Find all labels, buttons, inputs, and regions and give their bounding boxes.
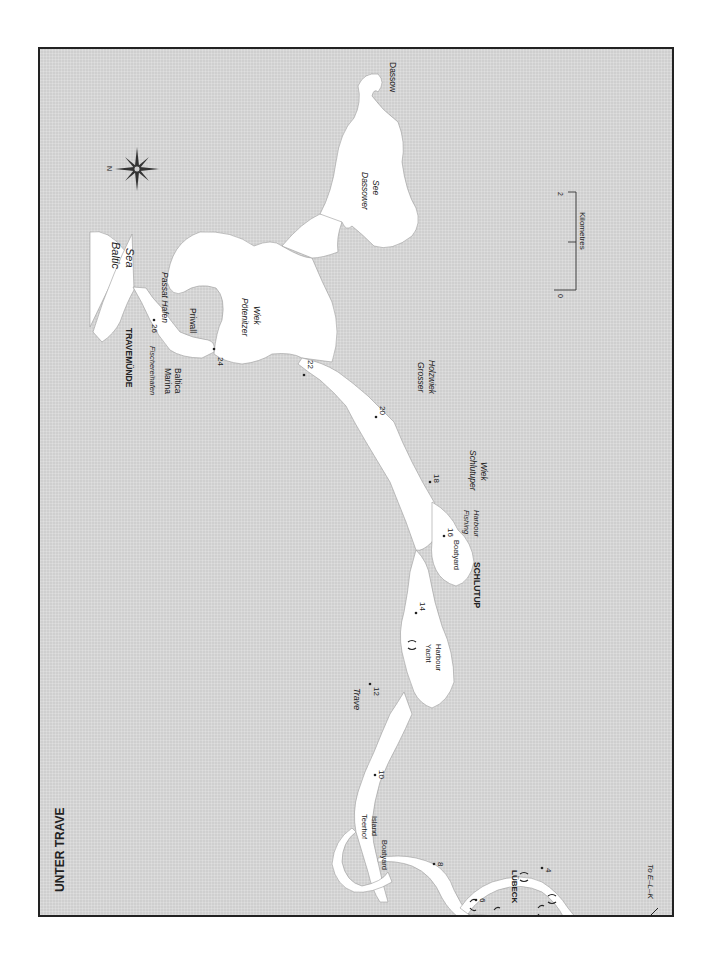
label-passat-hafen: Passat Hafen: [160, 272, 170, 323]
label-boatyard-schlutup: Boatyard: [452, 540, 461, 570]
label-dassower-see-1: Dassower: [360, 172, 370, 211]
label-grosser-1: Grosser: [416, 362, 426, 393]
label-schlutuper-2: Wiek: [479, 462, 489, 482]
label-fishing-1: Fishing: [462, 510, 471, 535]
label-fischereihafen: Fischereihafen: [148, 346, 157, 395]
label-dassower-see-2: See: [371, 180, 381, 195]
km-24: 24: [216, 357, 225, 366]
label-baltic-1: Baltic: [110, 242, 122, 269]
label-marina-2: Baltica: [173, 368, 183, 394]
label-schlutup: SCHLUTUP: [472, 562, 482, 609]
scale-unit: Kilometres: [578, 212, 587, 250]
chart-map: 4 6 8 10 12 14 16 18 20 22 24 26 Dassow …: [40, 49, 674, 917]
label-teerhof-1: Teerhof: [360, 814, 369, 840]
km-4: 4: [544, 868, 553, 873]
km-16: 16: [446, 528, 455, 537]
km-26: 26: [150, 324, 159, 333]
label-marina-1: Marina: [163, 368, 173, 394]
label-grosser-2: Holzwiek: [427, 360, 437, 395]
scale-end: 2: [557, 192, 564, 196]
label-poetenitzer-2: Wiek: [252, 306, 262, 326]
km-12: 12: [372, 687, 381, 696]
map-title: UNTER TRAVE: [53, 808, 67, 892]
label-baltic-2: Sea: [124, 248, 136, 268]
km-22: 22: [306, 360, 315, 369]
label-luebeck: LÜBECK: [510, 870, 519, 904]
label-travemuende: TRAVEMÜNDE: [124, 328, 134, 388]
label-trave: Trave: [352, 688, 362, 710]
water-bodies: [90, 74, 576, 917]
label-priwall: Priwall: [188, 308, 198, 333]
km-14: 14: [418, 602, 427, 611]
map-frame: 4 6 8 10 12 14 16 18 20 22 24 26 Dassow …: [38, 47, 674, 917]
scale-bar: 0 2 Kilometres: [554, 192, 587, 298]
km-8: 8: [436, 862, 445, 867]
km-18: 18: [432, 474, 441, 483]
label-dassow: Dassow: [388, 62, 398, 93]
km-10: 10: [377, 770, 386, 779]
compass-rose-icon: [115, 147, 159, 191]
label-fishing-2: Harbour: [472, 510, 481, 538]
label-teerhof-2: Island: [370, 816, 379, 836]
compass-north-label: N: [106, 166, 113, 171]
label-to-elk: To E–L–K: [646, 864, 655, 900]
label-schlutuper-1: Schlutuper: [468, 450, 478, 492]
label-boatyard-teerhof: Boatyard: [380, 840, 389, 870]
label-yacht-2: Harbour: [434, 644, 443, 672]
arrow-to-elk-icon: [646, 908, 658, 917]
label-poetenitzer-1: Pötenitzer: [240, 298, 250, 337]
scale-start: 0: [557, 294, 564, 298]
km-6: 6: [478, 898, 487, 903]
km-20: 20: [378, 406, 387, 415]
label-yacht-1: Yacht: [424, 644, 433, 664]
